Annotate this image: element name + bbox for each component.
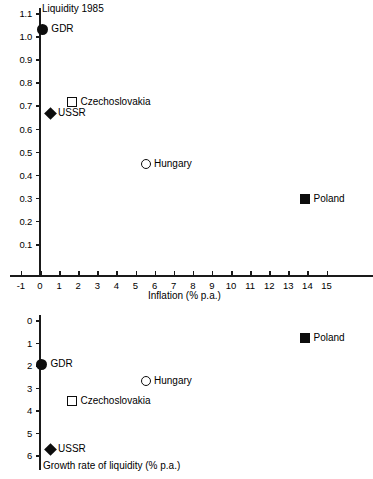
x-axis-tick: [78, 271, 80, 276]
marker-diamond-filled-icon: [44, 443, 57, 456]
x-axis-tick: [174, 271, 176, 276]
data-point-label: USSR: [58, 108, 86, 118]
marker-circle-open-icon: [141, 159, 151, 169]
marker-square-open-icon: [67, 97, 77, 107]
x-axis-tick: [116, 271, 118, 276]
data-point-ussr[interactable]: USSR: [46, 445, 55, 454]
y-axis-tick-label: 4: [0, 406, 32, 416]
data-point-label: Hungary: [154, 159, 192, 169]
x-axis-tick: [40, 271, 42, 276]
data-point-czechoslovakia[interactable]: Czechoslovakia: [67, 97, 77, 107]
x-axis-tick: [155, 271, 157, 276]
data-point-gdr[interactable]: GDR: [37, 24, 48, 35]
panel-title-liquidity: Liquidity 1985: [42, 3, 104, 14]
y-axis-tick: [36, 410, 41, 412]
x-axis-tick: [288, 271, 290, 276]
x-axis-tick: [307, 271, 309, 276]
marker-circle-filled-icon: [36, 359, 47, 370]
y-axis-tick: [36, 320, 41, 322]
y-axis-tick: [36, 175, 41, 177]
marker-circle-filled-icon: [37, 24, 48, 35]
data-point-label: Czechoslovakia: [80, 396, 150, 406]
x-axis-tick: [21, 271, 23, 276]
y-axis-tick-label: 0.3: [0, 194, 32, 204]
y-axis-tick: [36, 455, 41, 457]
x-axis-tick: [59, 271, 61, 276]
y-axis-tick-label: 1.0: [0, 32, 32, 42]
marker-circle-open-icon: [141, 376, 151, 386]
figure-two-scatter-panels: Liquidity 1985 0.10.20.30.40.50.60.70.80…: [0, 0, 373, 479]
x-axis-tick: [193, 271, 195, 276]
y-axis-tick-label: 0.7: [0, 101, 32, 111]
y-axis-tick-label: 0.6: [0, 125, 32, 135]
x-axis-tick: [97, 271, 99, 276]
x-axis-tick-label: 15: [313, 281, 341, 291]
data-point-label: Hungary: [154, 376, 192, 386]
data-point-poland[interactable]: Poland: [300, 333, 310, 343]
y-axis-tick: [36, 221, 41, 223]
data-point-label: Czechoslovakia: [80, 97, 150, 107]
y-axis-tick: [36, 13, 41, 15]
y-axis-tick-label: 0.9: [0, 55, 32, 65]
data-point-ussr[interactable]: USSR: [46, 109, 55, 118]
y-axis-line-top: [39, 8, 41, 276]
data-point-label: GDR: [51, 24, 73, 34]
y-axis-tick-label: 2: [0, 361, 32, 371]
y-axis-tick-label: 5: [0, 429, 32, 439]
y-axis-tick: [36, 82, 41, 84]
data-point-poland[interactable]: Poland: [300, 194, 310, 204]
data-point-hungary[interactable]: Hungary: [141, 376, 151, 386]
y-axis-tick-label: 0.1: [0, 240, 32, 250]
x-axis-tick: [212, 271, 214, 276]
y-axis-line-bottom: [39, 315, 41, 470]
y-axis-tick-label: 1: [0, 339, 32, 349]
y-axis-tick-label: 0.2: [0, 217, 32, 227]
x-axis-tick: [250, 271, 252, 276]
y-axis-tick: [36, 433, 41, 435]
y-axis-tick-label: 6: [0, 451, 32, 461]
y-axis-tick: [36, 343, 41, 345]
y-axis-tick: [36, 198, 41, 200]
marker-diamond-filled-icon: [44, 107, 57, 120]
marker-square-filled-icon: [300, 333, 310, 343]
y-axis-tick-label: 0: [0, 316, 32, 326]
data-point-label: USSR: [58, 444, 86, 454]
chart-panel-liquidity-1985: Liquidity 1985 0.10.20.30.40.50.60.70.80…: [0, 0, 373, 305]
y-axis-tick-label: 0.5: [0, 148, 32, 158]
y-axis-tick-label: 1.1: [0, 9, 32, 19]
data-point-czechoslovakia[interactable]: Czechoslovakia: [67, 396, 77, 406]
marker-square-open-icon: [67, 396, 77, 406]
data-point-label: GDR: [50, 359, 72, 369]
y-axis-tick-label: 0.4: [0, 171, 32, 181]
chart-panel-growth-rate-liquidity: 0123456 PolandGDRHungaryCzechoslovakiaUS…: [0, 305, 373, 479]
x-axis-tick: [136, 271, 138, 276]
y-axis-tick-label: 0.8: [0, 78, 32, 88]
y-axis-tick: [36, 105, 41, 107]
y-axis-title-growth-rate: Growth rate of liquidity (% p.a.): [43, 460, 180, 471]
x-axis-tick: [327, 271, 329, 276]
marker-square-filled-icon: [300, 194, 310, 204]
y-axis-tick: [36, 152, 41, 154]
x-axis-tick: [231, 271, 233, 276]
y-axis-tick: [36, 129, 41, 131]
x-axis-line-top: [10, 275, 373, 277]
x-axis-title-inflation: Inflation (% p.a.): [148, 290, 221, 301]
data-point-gdr[interactable]: GDR: [36, 359, 47, 370]
y-axis-tick: [36, 388, 41, 390]
y-axis-tick: [36, 244, 41, 246]
y-axis-tick: [36, 59, 41, 61]
data-point-hungary[interactable]: Hungary: [141, 159, 151, 169]
data-point-label: Poland: [313, 333, 344, 343]
y-axis-tick: [36, 36, 41, 38]
x-axis-tick: [269, 271, 271, 276]
data-point-label: Poland: [313, 194, 344, 204]
y-axis-tick-label: 3: [0, 384, 32, 394]
